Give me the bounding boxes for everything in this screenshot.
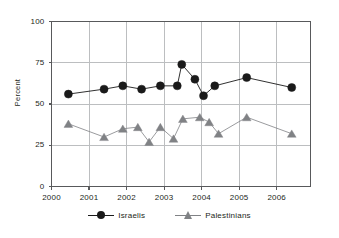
data-point-circle xyxy=(288,84,296,92)
y-tick-label: 50 xyxy=(19,99,45,108)
x-tick-label: 2002 xyxy=(107,193,147,202)
chart-legend: IsraelisPalestinians xyxy=(0,210,339,220)
data-point-circle xyxy=(200,92,208,100)
x-tick-label: 2006 xyxy=(257,193,297,202)
data-point-triangle xyxy=(287,130,296,137)
series-israelis xyxy=(64,60,295,99)
series-palestinians xyxy=(64,113,296,145)
data-point-circle xyxy=(119,82,127,90)
y-tick-label: 75 xyxy=(19,58,45,67)
data-series-layer xyxy=(64,60,296,145)
chart-container: Percent 0255075100 200020012002200320042… xyxy=(0,0,339,238)
legend-entry[interactable]: Israelis xyxy=(88,210,145,220)
x-tick-label: 2001 xyxy=(69,193,109,202)
y-tick-label: 100 xyxy=(19,17,45,26)
y-tick-label: 25 xyxy=(19,140,45,149)
data-point-circle xyxy=(243,74,251,82)
data-point-circle xyxy=(100,85,108,93)
data-point-triangle xyxy=(242,113,251,120)
x-tick-label: 2004 xyxy=(182,193,222,202)
data-point-circle xyxy=(138,85,146,93)
gridlines xyxy=(52,22,311,187)
data-point-circle xyxy=(173,82,181,90)
data-point-triangle xyxy=(214,130,223,137)
data-point-triangle xyxy=(100,133,109,140)
legend-circle-marker xyxy=(97,211,105,219)
triangle-marker-icon xyxy=(175,210,201,220)
data-point-circle xyxy=(178,60,186,68)
legend-label: Israelis xyxy=(118,211,145,220)
data-point-circle xyxy=(64,90,72,98)
data-point-triangle xyxy=(133,123,142,130)
legend-label: Palestinians xyxy=(205,211,251,220)
data-point-circle xyxy=(211,82,219,90)
x-tick-label: 2000 xyxy=(32,193,72,202)
chart-plot-area xyxy=(0,0,339,238)
legend-triangle-marker xyxy=(184,211,192,219)
x-tick-label: 2003 xyxy=(144,193,184,202)
x-tick-label: 2005 xyxy=(219,193,259,202)
legend-entry[interactable]: Palestinians xyxy=(175,210,251,220)
data-point-triangle xyxy=(64,120,73,127)
data-point-circle xyxy=(156,82,164,90)
y-tick-label: 0 xyxy=(19,182,45,191)
data-point-triangle xyxy=(205,118,214,125)
data-point-circle xyxy=(191,75,199,83)
axis-tickmarks xyxy=(49,22,277,190)
circle-marker-icon xyxy=(88,210,114,220)
data-point-triangle xyxy=(145,138,154,145)
data-point-triangle xyxy=(156,123,165,130)
